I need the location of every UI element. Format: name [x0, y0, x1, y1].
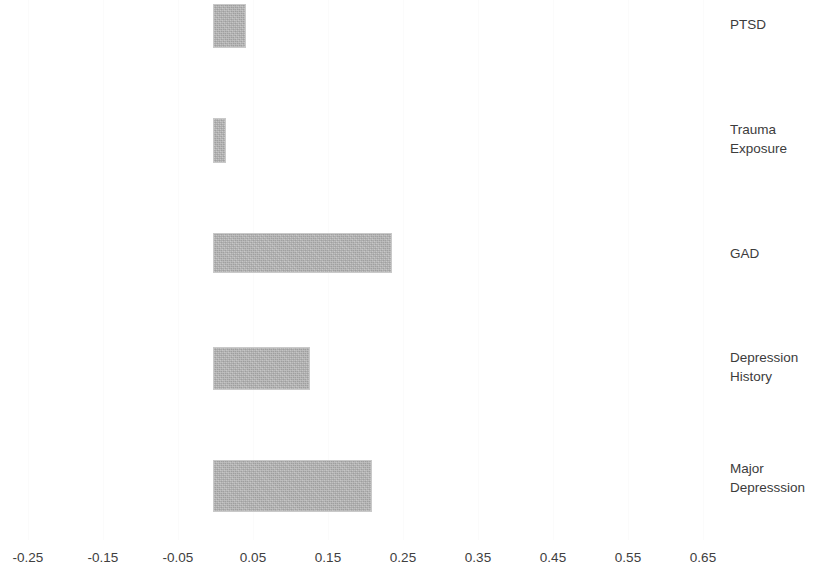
x-tick-label: 0.65 — [690, 548, 716, 568]
x-tick-label: -0.05 — [163, 548, 194, 568]
x-tick-label: -0.15 — [88, 548, 119, 568]
category-label-major-depression: Major Depresssion — [730, 459, 822, 497]
x-axis: -0.25 -0.15 -0.05 0.05 0.15 0.25 0.35 0.… — [0, 548, 824, 572]
bar-trauma-exposure — [213, 118, 226, 163]
plot-area: PTSD Trauma Exposure GAD Depression Hist… — [0, 0, 824, 540]
category-label-gad: GAD — [730, 244, 822, 263]
category-label-trauma-exposure: Trauma Exposure — [730, 120, 822, 158]
bar-row — [0, 460, 824, 512]
x-tick-label: 0.35 — [465, 548, 491, 568]
x-tick-label: 0.05 — [240, 548, 266, 568]
bar-chart: PTSD Trauma Exposure GAD Depression Hist… — [0, 0, 824, 576]
x-tick-label: 0.25 — [390, 548, 416, 568]
bar-row — [0, 347, 824, 390]
category-label-depression-history: Depression History — [730, 348, 822, 386]
bar-gad — [213, 233, 392, 273]
bar-major-depression — [213, 460, 372, 512]
bar-row — [0, 4, 824, 48]
x-tick-label: 0.45 — [540, 548, 566, 568]
x-tick-label: -0.25 — [13, 548, 44, 568]
bar-row — [0, 118, 824, 163]
category-label-ptsd: PTSD — [730, 15, 822, 34]
bar-row — [0, 233, 824, 273]
x-tick-label: 0.55 — [615, 548, 641, 568]
bar-ptsd — [213, 4, 246, 48]
bar-depression-history — [213, 347, 310, 390]
x-tick-label: 0.15 — [315, 548, 341, 568]
